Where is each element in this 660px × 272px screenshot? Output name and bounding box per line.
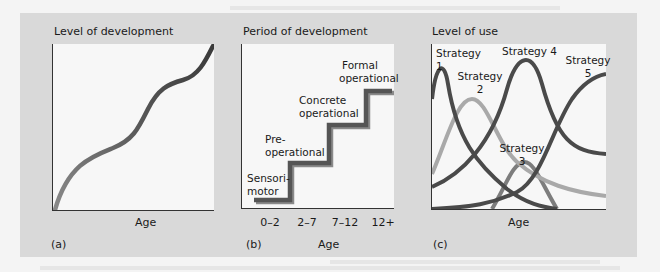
panel-a-letter: (a) xyxy=(51,238,66,251)
figure-panel: Level of development Age (a) Period of d… xyxy=(20,13,637,257)
strategy-4-label: Strategy 4 xyxy=(502,45,557,58)
continuous-development-curve xyxy=(53,44,214,210)
panel-b-ylabel: Period of development xyxy=(243,25,367,38)
panel-c-xlabel: Age xyxy=(508,216,529,229)
strategy-1-label: Strategy 1 xyxy=(436,47,481,72)
stage-sensorimotor: Sensori- motor xyxy=(247,172,290,197)
panel-b-xlabel: Age xyxy=(318,238,339,251)
panel-c-letter: (c) xyxy=(433,238,448,251)
panel-a: Level of development Age (a) xyxy=(20,13,225,257)
stage-formal-operational: Formal operational xyxy=(339,59,399,84)
strategy-2-label: Strategy 2 xyxy=(455,70,505,95)
tick-12-plus: 12+ xyxy=(363,216,403,229)
tick-2-7: 2–7 xyxy=(287,216,327,229)
panel-a-plot xyxy=(52,44,214,211)
panel-b-plot: Sensori- motor Pre- operational Concrete… xyxy=(241,44,394,209)
tick-0-2: 0–2 xyxy=(250,216,290,229)
strategy-5-label: Strategy 5 xyxy=(563,54,613,79)
stage-concrete-operational: Concrete operational xyxy=(299,94,359,119)
panel-a-ylabel: Level of development xyxy=(54,25,173,38)
panel-b: Period of development Sensori- motor Pre… xyxy=(225,13,425,257)
panel-c: Level of use Strategy 1 Strategy 2 xyxy=(425,13,637,257)
stage-preoperational: Pre- operational xyxy=(265,133,325,158)
panel-c-ylabel: Level of use xyxy=(432,25,498,38)
panel-b-letter: (b) xyxy=(246,238,262,251)
tick-7-12: 7–12 xyxy=(325,216,365,229)
strategy-3-label: Strategy 3 xyxy=(497,142,547,167)
panel-a-xlabel: Age xyxy=(135,216,156,229)
panel-c-plot: Strategy 1 Strategy 2 Strategy 3 Strateg… xyxy=(431,44,606,210)
